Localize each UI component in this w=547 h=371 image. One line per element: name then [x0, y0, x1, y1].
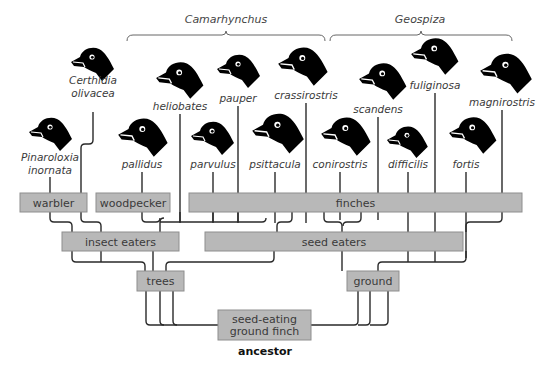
darwin-finches-phylogeny-diagram: CamarhynchusGeospiza warblerwoodpeckerfi… — [0, 0, 547, 371]
species-label: conirostris — [313, 158, 368, 170]
genus-label: Camarhynchus — [185, 13, 268, 26]
species-heliobates: heliobates — [153, 62, 208, 112]
diagram-canvas: CamarhynchusGeospiza warblerwoodpeckerfi… — [0, 0, 547, 371]
box-warbler: warbler — [20, 193, 87, 212]
box-label: seed eaters — [302, 236, 367, 249]
species-layer: PinaroloxiainornataCerthidiaolivaceapall… — [21, 38, 535, 176]
species-difficilis: difficilis — [387, 127, 429, 170]
box-ground: ground — [347, 271, 399, 291]
genus-camarhynchus: Camarhynchus — [127, 13, 325, 41]
box-label: woodpecker — [100, 197, 167, 210]
genus-geospiza: Geospiza — [330, 13, 512, 41]
species-label: olivacea — [71, 87, 115, 99]
species-label: pauper — [218, 92, 257, 104]
category-boxes: warblerwoodpeckerfinchesinsect eaterssee… — [20, 193, 522, 340]
species-parvulus: parvulus — [189, 122, 236, 170]
box-insect-eaters: insect eaters — [62, 232, 179, 251]
finch-head-icon — [217, 55, 260, 88]
genus-brackets: CamarhynchusGeospiza — [127, 13, 512, 41]
finch-head-icon — [156, 62, 203, 98]
species-pallidus: pallidus — [118, 119, 167, 170]
species-label: Certhidia — [69, 74, 117, 86]
species-certhidia: Certhidiaolivacea — [69, 48, 117, 99]
species-fuliginosa: fuliginosa — [410, 38, 461, 91]
genus-bracket — [330, 31, 512, 41]
species-magnirostris: magnirostris — [469, 54, 535, 108]
genus-bracket — [127, 31, 325, 41]
finch-head-icon — [449, 117, 496, 153]
species-label: crassirostris — [274, 89, 338, 101]
finch-head-icon — [387, 127, 428, 158]
ancestor-label: ancestor — [238, 345, 293, 358]
finch-head-icon — [118, 119, 167, 157]
finch-head-icon — [278, 48, 327, 86]
box-label: ground — [354, 275, 393, 288]
species-fortis: fortis — [449, 117, 496, 170]
species-label: fortis — [453, 158, 480, 170]
finch-head-icon — [480, 54, 532, 94]
finch-head-icon — [191, 122, 234, 155]
finch-head-icon — [359, 63, 406, 99]
species-pinaroloxia: Pinaroloxiainornata — [21, 118, 79, 176]
species-label: Pinaroloxia — [21, 151, 79, 163]
species-label: pallidus — [121, 158, 163, 170]
finch-head-icon — [252, 114, 304, 154]
species-conirostris: conirostris — [313, 118, 371, 170]
box-label: insect eaters — [85, 236, 156, 249]
species-pauper: pauper — [217, 55, 260, 104]
box-seed-eaters: seed eaters — [205, 232, 463, 251]
box-label: finches — [336, 197, 376, 210]
species-label: heliobates — [153, 100, 208, 112]
box-label: ground finch — [230, 325, 299, 338]
species-label: psittacula — [248, 158, 301, 170]
box-woodpecker: woodpecker — [96, 193, 170, 212]
finch-head-icon — [321, 118, 370, 156]
box-ancestor-box: seed-eatingground finch — [218, 310, 311, 340]
species-label: inornata — [28, 164, 72, 176]
species-label: parvulus — [189, 158, 236, 170]
finch-head-icon — [29, 118, 72, 151]
box-label: trees — [147, 275, 175, 288]
box-label: warbler — [33, 197, 75, 210]
box-trees: trees — [137, 271, 184, 291]
species-crassirostris: crassirostris — [274, 48, 338, 101]
species-label: scandens — [353, 103, 403, 115]
genus-label: Geospiza — [395, 13, 446, 26]
species-psittacula: psittacula — [248, 114, 304, 170]
species-label: fuliginosa — [410, 79, 461, 91]
finch-head-icon — [411, 38, 458, 74]
species-label: magnirostris — [469, 96, 535, 108]
species-label: difficilis — [388, 158, 429, 170]
box-finches: finches — [189, 193, 522, 212]
species-scandens: scandens — [353, 63, 406, 115]
